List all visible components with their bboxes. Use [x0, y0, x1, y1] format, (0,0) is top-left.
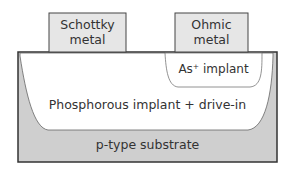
ohmic-metal-label: Ohmic metal	[175, 17, 248, 47]
schottky-metal-label: Schottky metal	[49, 17, 126, 47]
phosphorous-label: Phosphorous implant + drive-in	[18, 97, 277, 112]
as-implant-label: As⁺ implant	[165, 62, 262, 76]
substrate-label: p-type substrate	[18, 137, 277, 152]
schottky-label-line1: Schottky	[49, 17, 126, 32]
ohmic-label-line1: Ohmic	[175, 17, 248, 32]
schottky-label-line2: metal	[49, 32, 126, 47]
ohmic-label-line2: metal	[175, 32, 248, 47]
